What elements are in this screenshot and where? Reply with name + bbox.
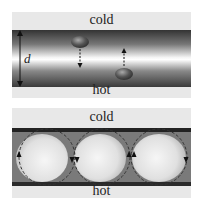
dimension-label: d xyxy=(24,51,31,67)
roll-1 xyxy=(19,129,75,185)
down-arrow-icon xyxy=(78,63,83,68)
roll-3 xyxy=(131,129,187,185)
up-arrow-icon xyxy=(122,48,127,53)
up-arrow-icon xyxy=(132,151,137,157)
top-panel-graphics xyxy=(12,12,191,98)
bottom-panel: cold hot xyxy=(12,108,191,198)
down-arrow-icon xyxy=(184,157,189,163)
dimension-arrow-icon xyxy=(17,30,23,87)
top-panel: cold hot d xyxy=(12,12,191,98)
blob-rising-icon xyxy=(115,68,133,80)
convection-rolls-graphics xyxy=(12,108,191,198)
roll-2 xyxy=(74,129,130,185)
up-arrow-icon xyxy=(17,151,22,157)
down-arrow-icon xyxy=(70,157,75,163)
blob-sinking-icon xyxy=(71,36,89,48)
